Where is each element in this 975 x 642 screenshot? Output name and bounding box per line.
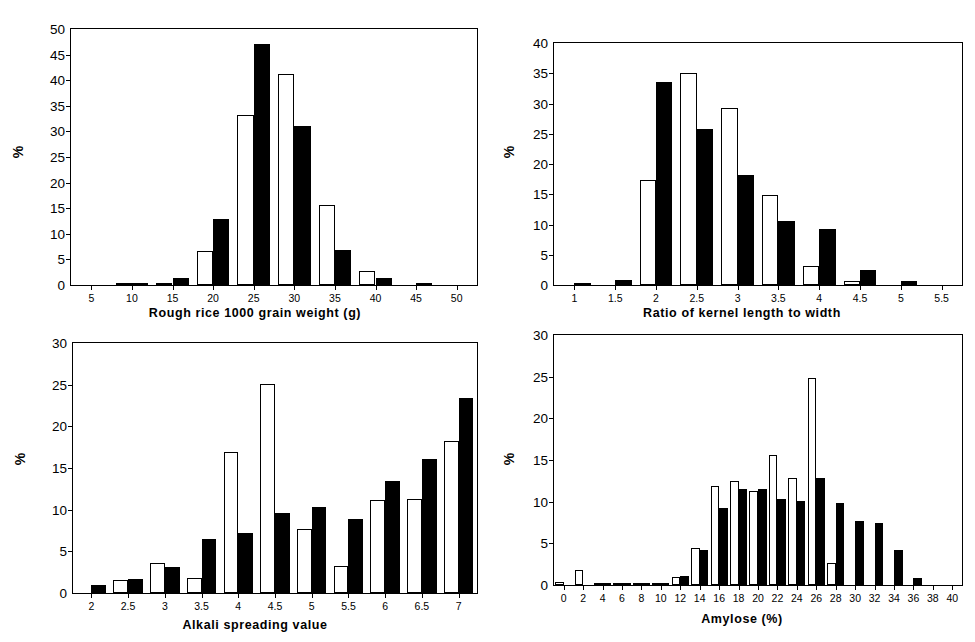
x-tick-label: 4 bbox=[235, 600, 241, 612]
x-axis-title-panel-2: Ratio of kernel length to width bbox=[527, 306, 957, 320]
y-tick-label: 10 bbox=[508, 217, 554, 232]
y-tick-mark bbox=[66, 80, 71, 81]
histogram-bar bbox=[633, 583, 642, 585]
histogram-bar bbox=[359, 271, 375, 285]
x-tick-label: 35 bbox=[329, 292, 341, 304]
x-tick-mark bbox=[901, 285, 902, 290]
figure-grid: % 05101520253035404550510152025303540455… bbox=[0, 0, 975, 642]
histogram-bar bbox=[132, 283, 148, 285]
x-tick-mark bbox=[697, 285, 698, 290]
histogram-bar bbox=[370, 500, 385, 593]
y-tick-mark bbox=[68, 385, 73, 386]
x-tick-mark bbox=[656, 285, 657, 290]
y-tick-mark bbox=[66, 131, 71, 132]
x-tick-label: 40 bbox=[370, 292, 382, 304]
x-tick-mark bbox=[91, 593, 92, 598]
x-tick-label: 10 bbox=[655, 592, 667, 604]
x-tick-mark bbox=[416, 285, 417, 290]
histogram-bar bbox=[875, 523, 884, 585]
histogram-bar bbox=[444, 441, 459, 593]
histogram-bar bbox=[594, 583, 603, 585]
histogram-bar bbox=[297, 529, 312, 593]
y-tick-mark bbox=[549, 104, 554, 105]
x-tick-label: 4.5 bbox=[853, 292, 868, 304]
x-tick-mark bbox=[942, 285, 943, 290]
histogram-bar bbox=[901, 281, 917, 285]
histogram-bar bbox=[555, 582, 564, 585]
x-tick-mark bbox=[385, 593, 386, 598]
histogram-bar bbox=[680, 73, 696, 285]
y-tick-mark bbox=[549, 377, 554, 378]
x-tick-label: 16 bbox=[713, 592, 725, 604]
x-tick-mark bbox=[641, 585, 642, 590]
histogram-bar bbox=[113, 580, 128, 593]
x-tick-mark bbox=[583, 585, 584, 590]
histogram-bar bbox=[150, 563, 165, 593]
y-tick-mark bbox=[549, 543, 554, 544]
x-tick-label: 1.5 bbox=[608, 292, 623, 304]
histogram-bar bbox=[574, 283, 590, 285]
histogram-bar bbox=[739, 489, 748, 585]
x-tick-mark bbox=[875, 585, 876, 590]
histogram-bar bbox=[711, 486, 720, 585]
x-tick-label: 14 bbox=[694, 592, 706, 604]
x-tick-mark bbox=[738, 285, 739, 290]
histogram-bar bbox=[797, 501, 806, 585]
plot-area-panel-3: 05101520253022.533.544.555.566.57 bbox=[72, 342, 478, 594]
histogram-bar bbox=[613, 583, 622, 585]
histogram-bar bbox=[738, 175, 754, 285]
y-tick-mark bbox=[549, 255, 554, 256]
histogram-bar bbox=[603, 583, 612, 585]
y-tick-label: 15 bbox=[508, 453, 554, 468]
x-axis-title-panel-4: Amylose (%) bbox=[527, 612, 957, 626]
y-tick-label: 25 bbox=[508, 369, 554, 384]
x-tick-label: 8 bbox=[639, 592, 645, 604]
x-tick-label: 25 bbox=[248, 292, 260, 304]
y-tick-mark bbox=[68, 551, 73, 552]
y-tick-label: 5 bbox=[27, 544, 73, 559]
x-tick-mark bbox=[165, 593, 166, 598]
histogram-bar bbox=[187, 578, 202, 593]
x-tick-mark bbox=[661, 585, 662, 590]
y-tick-label: 25 bbox=[27, 377, 73, 392]
histogram-bar bbox=[855, 521, 864, 585]
x-tick-mark bbox=[422, 593, 423, 598]
histogram-bar bbox=[719, 508, 728, 585]
histogram-bar bbox=[385, 481, 400, 594]
y-tick-label: 10 bbox=[25, 226, 71, 241]
y-tick-label: 30 bbox=[508, 96, 554, 111]
y-tick-label: 35 bbox=[25, 98, 71, 113]
x-tick-mark bbox=[564, 585, 565, 590]
y-tick-mark bbox=[66, 259, 71, 260]
plot-area-panel-2: 051015202530354011.522.533.544.555.5 bbox=[553, 42, 963, 286]
y-tick-mark bbox=[66, 106, 71, 107]
chart-panel-rough-rice-grain-weight: % 05101520253035404550510152025303540455… bbox=[0, 4, 488, 322]
histogram-bar bbox=[335, 250, 351, 285]
x-tick-label: 3.5 bbox=[771, 292, 786, 304]
histogram-bar bbox=[656, 82, 672, 285]
x-tick-mark bbox=[860, 285, 861, 290]
x-axis-title-panel-1: Rough rice 1000 grain weight (g) bbox=[40, 306, 470, 320]
histogram-bar bbox=[827, 563, 836, 586]
y-tick-label: 30 bbox=[25, 124, 71, 139]
x-tick-label: 40 bbox=[946, 592, 958, 604]
x-tick-mark bbox=[335, 285, 336, 290]
x-tick-mark bbox=[739, 585, 740, 590]
y-tick-mark bbox=[66, 157, 71, 158]
histogram-bar bbox=[312, 507, 327, 593]
histogram-bar bbox=[749, 491, 758, 585]
x-tick-mark bbox=[173, 285, 174, 290]
x-tick-label: 12 bbox=[674, 592, 686, 604]
histogram-bar bbox=[407, 499, 422, 593]
x-tick-label: 2 bbox=[580, 592, 586, 604]
x-tick-label: 22 bbox=[772, 592, 784, 604]
histogram-bar bbox=[116, 283, 132, 285]
x-tick-label: 5 bbox=[309, 600, 315, 612]
x-tick-mark bbox=[855, 585, 856, 590]
x-tick-label: 18 bbox=[733, 592, 745, 604]
x-tick-label: 6.5 bbox=[415, 600, 430, 612]
bars-panel-1 bbox=[71, 29, 477, 285]
x-tick-label: 5 bbox=[898, 292, 904, 304]
y-tick-label: 50 bbox=[25, 22, 71, 37]
y-tick-mark bbox=[68, 426, 73, 427]
